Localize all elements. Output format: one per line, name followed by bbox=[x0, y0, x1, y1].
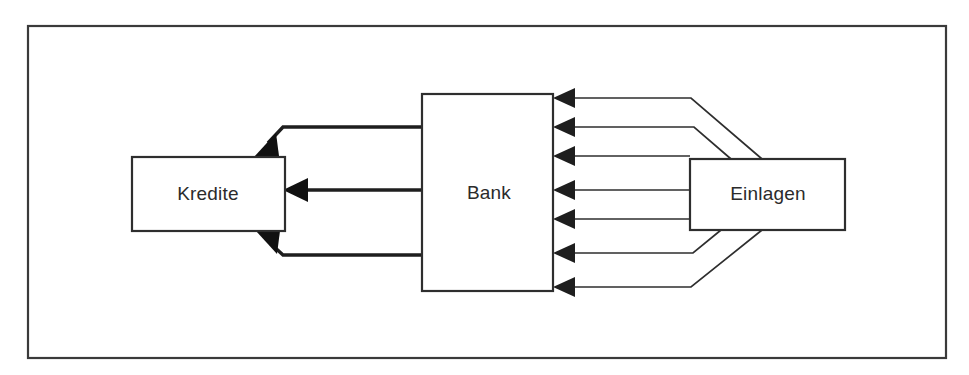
kredite-label: Kredite bbox=[177, 183, 239, 204]
bank-intermediation-diagram: Kredite Bank Einlagen bbox=[0, 0, 969, 375]
einlagen-label: Einlagen bbox=[730, 183, 806, 204]
node-kredite[interactable]: Kredite bbox=[132, 157, 285, 231]
node-einlagen[interactable]: Einlagen bbox=[690, 159, 845, 230]
bank-label: Bank bbox=[467, 182, 511, 203]
figure-root: Kredite Bank Einlagen bbox=[0, 0, 969, 375]
node-bank[interactable]: Bank bbox=[422, 94, 553, 291]
